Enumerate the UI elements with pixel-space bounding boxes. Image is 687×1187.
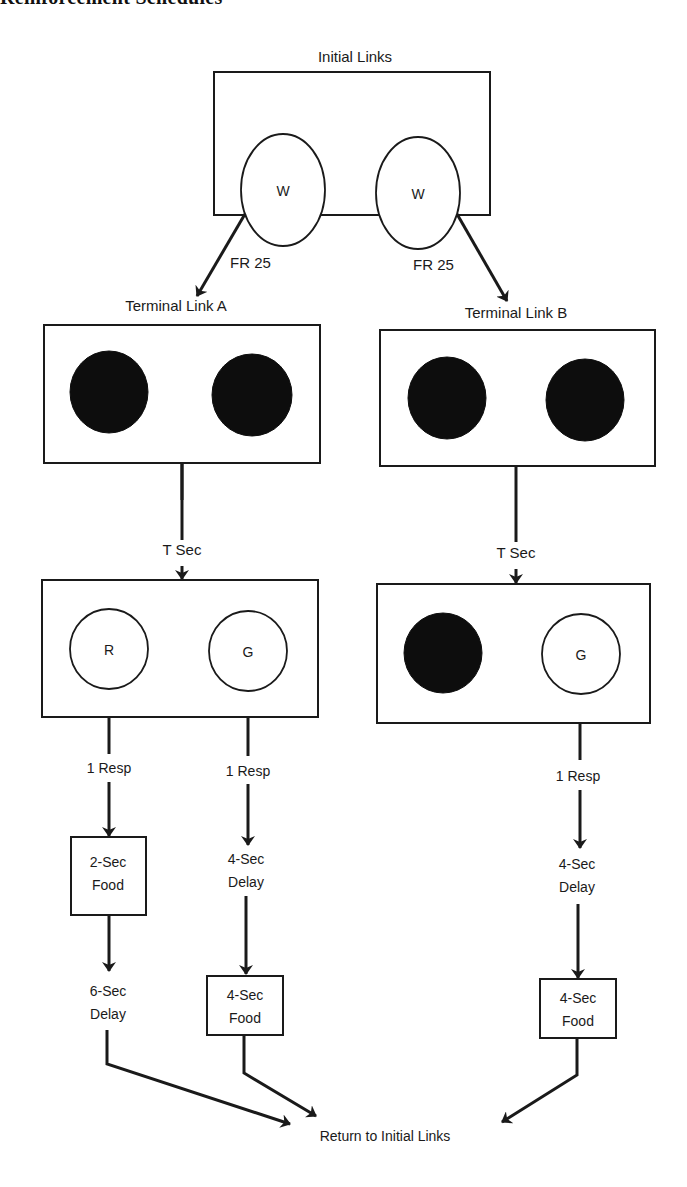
a1-return-arrow (107, 1030, 290, 1124)
terminal-b-key-left-icon (408, 357, 486, 439)
fr-left-label: FR 25 (230, 254, 271, 271)
terminal-link-b-group: Terminal Link B (380, 304, 655, 466)
a1-step2-line2: Delay (90, 1006, 126, 1022)
chain-schedule-diagram: Initial Links W W FR 25 FR 25 Terminal L… (0, 0, 687, 1187)
initial-key-left-label: W (276, 183, 290, 199)
a2-step1-line2: Delay (228, 874, 264, 890)
terminal-a-choice-group: R G (42, 580, 318, 717)
initial-key-right-label: W (411, 186, 425, 202)
a2-step2-line1: 4-Sec (227, 987, 264, 1003)
a1-step2-line1: 6-Sec (90, 983, 127, 999)
a1-step1-line2: Food (92, 877, 124, 893)
green-key-a-label: G (243, 644, 254, 660)
a2-return-arrow (244, 1035, 316, 1116)
a2-response-label: 1 Resp (226, 763, 271, 779)
return-label: Return to Initial Links (320, 1128, 451, 1144)
terminal-a-key-right-icon (212, 354, 292, 436)
b1-response-label: 1 Resp (556, 768, 601, 784)
terminal-link-a-title: Terminal Link A (125, 297, 227, 314)
a1-step1-line1: 2-Sec (90, 854, 127, 870)
a1-response-label: 1 Resp (87, 760, 132, 776)
terminal-b-key-right-icon (546, 359, 624, 441)
arrow-to-terminal-b (457, 214, 507, 301)
red-key-label: R (104, 642, 114, 658)
b1-step2-line1: 4-Sec (560, 990, 597, 1006)
a2-step2-line2: Food (229, 1010, 261, 1026)
tsec-b-label: T Sec (497, 544, 536, 561)
initial-links-group: Initial Links W W (214, 48, 490, 249)
dark-key-icon (404, 613, 482, 693)
terminal-a-key-left-icon (70, 351, 148, 433)
b1-step1-line2: Delay (559, 879, 595, 895)
terminal-link-b-title: Terminal Link B (465, 304, 568, 321)
fr-right-label: FR 25 (413, 256, 454, 273)
terminal-b-choice-group: G (377, 584, 650, 723)
a2-step1-line1: 4-Sec (228, 851, 265, 867)
b1-step1-line1: 4-Sec (559, 856, 596, 872)
terminal-link-a-group: Terminal Link A (44, 297, 320, 463)
a2-food-box (207, 976, 283, 1035)
tsec-a-label: T Sec (163, 541, 202, 558)
a1-food-box (71, 837, 146, 915)
initial-links-title: Initial Links (318, 48, 392, 65)
b1-food-box (540, 979, 616, 1038)
b1-return-arrow (502, 1038, 577, 1122)
green-key-b-label: G (576, 647, 587, 663)
b1-step2-line2: Food (562, 1013, 594, 1029)
